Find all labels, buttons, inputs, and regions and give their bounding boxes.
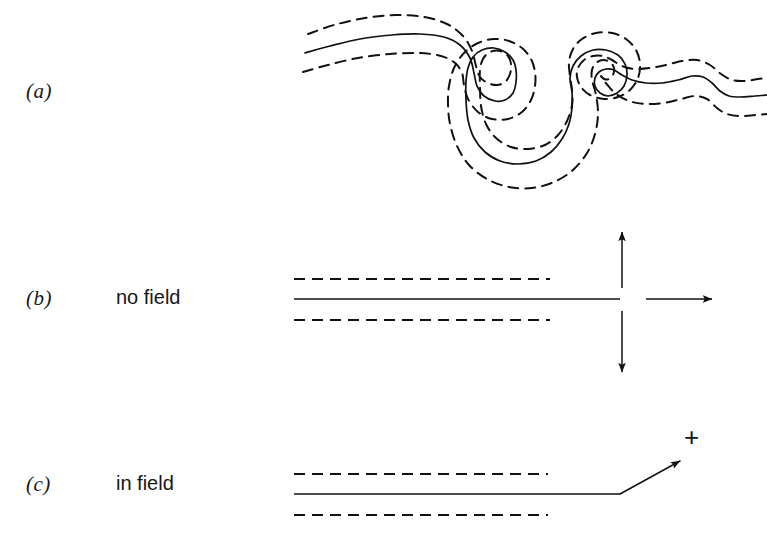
panel-a-tube-lower-path [303, 39, 767, 189]
panel-b-caption: no field [116, 286, 181, 309]
panel-c-field-arrow [620, 461, 680, 494]
figure-canvas [0, 0, 767, 549]
positive-charge-label: + [684, 424, 699, 450]
panel-a-graphic [303, 15, 767, 188]
panel-a-tube-upper-path [308, 15, 767, 149]
figure-root: (a) (b) no field (c) in field + [0, 0, 767, 549]
panel-c-tag: (c) [26, 472, 51, 497]
panel-c-graphic [294, 461, 680, 515]
panel-b-graphic [294, 232, 712, 372]
panel-a-tag: (a) [26, 79, 52, 104]
panel-a-chain-path [305, 34, 767, 164]
panel-b-tag: (b) [26, 286, 52, 311]
panel-c-caption: in field [116, 472, 174, 495]
